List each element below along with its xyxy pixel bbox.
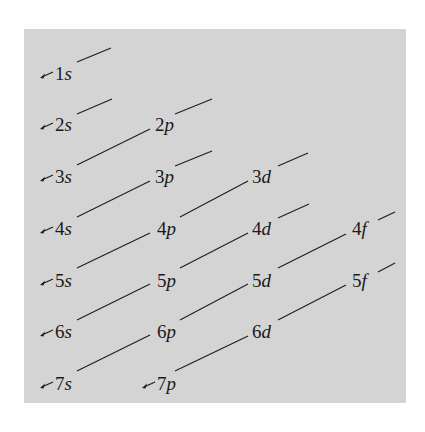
principal-number: 3 [155, 166, 165, 187]
orbital-label-5s: 5s [55, 270, 72, 291]
principal-number: 2 [55, 114, 65, 135]
orbital-label-3p: 3p [155, 166, 174, 187]
principal-number: 4 [55, 218, 65, 239]
principal-number: 7 [55, 373, 65, 394]
subshell-letter: s [65, 373, 72, 394]
principal-number: 6 [55, 321, 65, 342]
subshell-letter: s [65, 166, 72, 187]
connector-line-2p [175, 99, 212, 114]
connector-line-4d [278, 204, 309, 218]
connector-line-2s [77, 99, 112, 114]
orbital-label-5f: 5f [352, 270, 370, 291]
arrow-left-down-icon [142, 382, 155, 389]
subshell-letter: d [262, 218, 272, 239]
connector-line-6s-to-5p [77, 284, 150, 320]
arrow-left-down-icon [40, 382, 53, 389]
orbital-label-5d: 5d [252, 270, 272, 291]
orbital-label-4d: 4d [252, 218, 272, 239]
orbital-label-7p: 7p [157, 373, 176, 394]
orbital-label-5p: 5p [157, 270, 176, 291]
connector-line-5d-to-4f [278, 234, 346, 268]
connector-line-3d [278, 153, 308, 166]
principal-number: 6 [157, 321, 167, 342]
subshell-letter: d [262, 166, 272, 187]
orbital-label-4s: 4s [55, 218, 72, 239]
connector-line-3s-to-2p [77, 129, 150, 165]
connector-line-6p-to-5d [180, 284, 248, 320]
orbital-label-1s: 1s [55, 63, 72, 84]
orbital-label-3d: 3d [252, 166, 272, 187]
subshell-letter: p [163, 114, 175, 135]
orbital-label-4f: 4f [352, 218, 370, 239]
connector-line-7s-to-6p [77, 335, 150, 371]
orbital-filling-diagram: 1s2s2p3s3p3d4s4p4d4f5s5p5d5f6s6p6d7s7p [0, 0, 425, 432]
principal-number: 5 [157, 270, 167, 291]
orbital-label-6s: 6s [55, 321, 72, 342]
principal-number: 5 [55, 270, 65, 291]
principal-number: 2 [155, 114, 165, 135]
connector-line-4f [378, 212, 395, 220]
orbital-label-3s: 3s [55, 166, 72, 187]
principal-number: 7 [157, 373, 167, 394]
principal-number: 4 [157, 218, 167, 239]
connector-line-5f [378, 263, 395, 272]
principal-number: 5 [352, 270, 362, 291]
connector-line-7p-to-6d [175, 336, 248, 371]
subshell-letter: d [262, 321, 272, 342]
orbital-label-2p: 2p [155, 114, 174, 135]
connector-line-4s-to-3p [77, 181, 150, 217]
principal-number: 4 [252, 218, 262, 239]
orbital-label-6d: 6d [252, 321, 272, 342]
subshell-letter: s [65, 270, 72, 291]
subshell-letter: s [65, 321, 72, 342]
orbital-labels: 1s2s2p3s3p3d4s4p4d4f5s5p5d5f6s6p6d7s7p [55, 63, 370, 394]
arrow-left-down-icon [40, 279, 53, 286]
orbital-label-7s: 7s [55, 373, 72, 394]
arrow-left-down-icon [40, 175, 53, 182]
subshell-letter: p [165, 373, 177, 394]
arrow-left-down-icon [40, 72, 53, 79]
subshell-letter: p [165, 321, 177, 342]
orbital-label-6p: 6p [157, 321, 176, 342]
orbital-label-4p: 4p [157, 218, 176, 239]
connector-line-4p-to-3d [180, 181, 248, 217]
connector-line-3p [175, 151, 212, 166]
connector-line-5s-to-4p [77, 233, 150, 268]
principal-number: 1 [55, 63, 65, 84]
subshell-letter: f [362, 270, 370, 291]
subshell-letter: f [362, 218, 370, 239]
principal-number: 5 [252, 270, 262, 291]
diagonal-connectors [77, 48, 395, 371]
arrow-left-down-icon [40, 227, 53, 234]
connector-line-1s [77, 48, 111, 62]
arrow-left-down-icon [40, 330, 53, 337]
arrow-left-down-icon [40, 123, 53, 130]
orbital-label-2s: 2s [55, 114, 72, 135]
connector-line-5p-to-4d [180, 233, 248, 268]
principal-number: 6 [252, 321, 262, 342]
subshell-letter: p [163, 166, 175, 187]
subshell-letter: s [65, 63, 72, 84]
principal-number: 3 [55, 166, 65, 187]
principal-number: 3 [252, 166, 262, 187]
subshell-letter: p [165, 218, 177, 239]
subshell-letter: p [165, 270, 177, 291]
connector-line-6d-to-5f [278, 285, 346, 320]
principal-number: 4 [352, 218, 362, 239]
subshell-letter: s [65, 114, 72, 135]
subshell-letter: s [65, 218, 72, 239]
subshell-letter: d [262, 270, 272, 291]
